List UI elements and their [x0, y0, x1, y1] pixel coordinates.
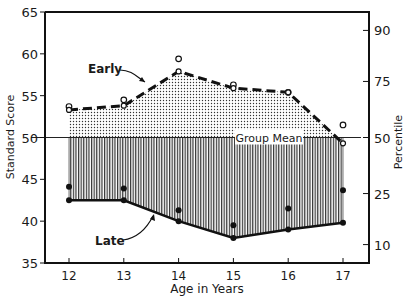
early-point-open	[176, 56, 182, 62]
y-tick-label: 60	[21, 47, 38, 62]
late-label: Late	[95, 234, 125, 248]
early-point-open	[121, 97, 127, 103]
area-fills	[69, 71, 343, 237]
early-mean-point	[176, 69, 181, 74]
late-mean-point	[176, 218, 182, 224]
x-tick-label: 12	[61, 269, 76, 283]
late-point-filled	[66, 184, 72, 190]
x-tick-label: 16	[281, 269, 296, 283]
late-point-filled	[176, 207, 182, 213]
late-mean-point	[66, 197, 72, 203]
x-axis-title: Age in Years	[170, 282, 243, 296]
x-tick-label: 15	[226, 269, 241, 283]
early-point-open	[340, 122, 346, 128]
late-point-filled	[121, 186, 127, 192]
y2-tick-label: 25	[374, 187, 391, 202]
y-tick-label: 40	[21, 214, 38, 229]
early-mean-point	[121, 103, 126, 108]
early-label: Early	[88, 62, 122, 76]
y-tick-label: 55	[21, 89, 38, 104]
late-point-filled	[285, 206, 291, 212]
y-tick-label: 65	[21, 5, 38, 20]
early-mean-point	[341, 141, 346, 146]
x-tick-label: 13	[116, 269, 131, 283]
group-mean-label: Group Mean	[236, 132, 303, 145]
late-mean-point	[285, 227, 291, 233]
y2-axis-title: Percentile	[392, 115, 405, 170]
late-point-filled	[230, 222, 236, 228]
late-mean-point	[340, 220, 346, 226]
y-tick-label: 35	[21, 256, 38, 271]
y2-tick-label: 90	[374, 23, 391, 38]
chart: Group Mean 35404550556065102550759012131…	[0, 0, 412, 301]
early-mean-point	[231, 86, 236, 91]
early-mean-point	[67, 107, 72, 112]
late-point-filled	[340, 187, 346, 193]
y-axis-title: Standard Score	[4, 95, 17, 180]
late-arrow	[123, 216, 153, 240]
x-tick-label: 14	[171, 269, 186, 283]
early-mean-point	[286, 90, 291, 95]
y-tick-label: 50	[21, 131, 38, 146]
y-tick-label: 45	[21, 172, 38, 187]
x-tick-label: 17	[335, 269, 350, 283]
y2-tick-label: 75	[374, 74, 391, 89]
y2-tick-label: 50	[374, 131, 391, 146]
late-area	[69, 138, 343, 238]
y2-tick-label: 10	[374, 238, 391, 253]
late-mean-point	[230, 235, 236, 241]
late-mean-point	[121, 197, 127, 203]
